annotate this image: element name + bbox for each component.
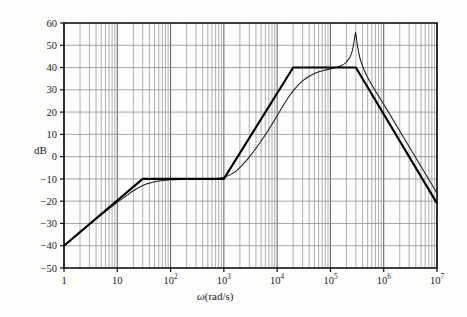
- svg-text:ω(rad/s): ω(rad/s): [197, 290, 234, 303]
- x-axis-label: ω(rad/s): [197, 290, 234, 303]
- y-tick-label: 30: [47, 84, 58, 95]
- y-tick-label: 50: [47, 40, 58, 51]
- y-tick-label: 10: [47, 129, 58, 140]
- y-tick-label: 20: [47, 107, 58, 118]
- y-tick-label: −30: [41, 218, 57, 229]
- y-tick-label: 60: [47, 18, 58, 29]
- x-tick-label: 10: [112, 275, 123, 286]
- svg-text:10: 10: [112, 275, 123, 286]
- y-tick-label: −40: [41, 240, 57, 251]
- y-tick-label: 40: [47, 62, 58, 73]
- figure-background: [0, 0, 467, 317]
- bode-plot-svg: 6050403020100−10−20−30−40−50 11010210310…: [0, 0, 467, 317]
- svg-text:1: 1: [61, 275, 66, 286]
- bode-plot-figure: 6050403020100−10−20−30−40−50 11010210310…: [0, 0, 467, 317]
- y-tick-label: −50: [41, 263, 57, 274]
- y-tick-label: −10: [41, 174, 57, 185]
- y-axis-label: dB: [34, 144, 47, 156]
- x-tick-label: 1: [61, 275, 66, 286]
- y-tick-label: 0: [52, 151, 57, 162]
- y-tick-label: −20: [41, 196, 57, 207]
- x-axis-units: (rad/s): [205, 290, 234, 303]
